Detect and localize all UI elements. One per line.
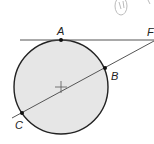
label-c: C [15,119,23,131]
label-f: F [147,26,154,38]
point-c [20,111,24,115]
geometry-diagram: A B C F [0,0,154,144]
point-a [59,38,63,42]
point-b [103,66,107,70]
margin-note [115,0,150,15]
label-b: B [111,70,118,82]
label-a: A [56,25,64,37]
